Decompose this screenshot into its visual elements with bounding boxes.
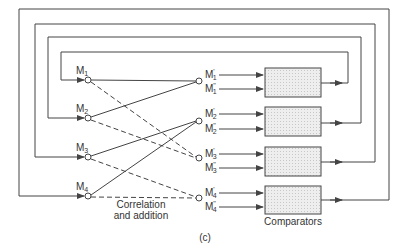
- correlation-label: Correlation: [117, 199, 166, 210]
- link-m1-out1: [91, 80, 196, 81]
- output-node-1: [196, 78, 202, 84]
- comparator-box-3: [265, 147, 321, 176]
- comparator-box-4: [265, 186, 321, 214]
- comparators-label: Comparators: [264, 216, 322, 227]
- input-node-4: [85, 193, 91, 199]
- output-node-4: [196, 195, 202, 201]
- input-label-2: M2: [76, 103, 88, 115]
- link-m4-out2: [91, 122, 196, 195]
- input-node-3: [85, 154, 91, 160]
- feedback-loop-4: [19, 9, 389, 200]
- comparator-box-2: [265, 107, 321, 136]
- figure-label: (c): [199, 232, 211, 243]
- link-m4-out4: [91, 197, 196, 198]
- input-node-1: [85, 77, 91, 83]
- comparator-box-1: [265, 68, 321, 97]
- output-node-2: [196, 118, 202, 124]
- input-node-2: [85, 115, 91, 121]
- output-label-2a: M'2: [205, 107, 217, 120]
- output-label-3a: M'3: [205, 147, 217, 160]
- link-m2-out1: [91, 82, 196, 117]
- output-label-1a: M'1: [205, 68, 217, 81]
- output-label-4a: M'4: [205, 186, 217, 199]
- output-label-4b: M"4: [205, 200, 217, 213]
- correlation-comparator-diagram: M1 M2 M3 M4 M'1 M"1 M'2 M"2 M'3 M"3 M'4 …: [0, 0, 406, 248]
- link-m1-out3: [91, 82, 196, 157]
- output-label-1b: M"1: [205, 82, 217, 95]
- input-label-1: M1: [76, 65, 88, 77]
- link-m3-out4: [91, 159, 196, 197]
- output-node-3: [196, 155, 202, 161]
- input-label-4: M4: [76, 181, 88, 193]
- output-label-3b: M"3: [205, 161, 217, 174]
- addition-label: and addition: [114, 210, 169, 221]
- input-label-3: M3: [76, 142, 88, 154]
- link-m3-out2: [91, 121, 196, 156]
- output-label-2b: M"2: [205, 122, 217, 135]
